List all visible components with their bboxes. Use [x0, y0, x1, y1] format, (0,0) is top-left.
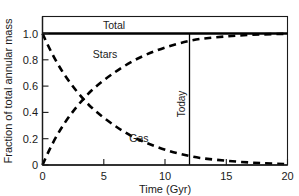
y-axis-title: Fraction of total annular mass — [2, 18, 14, 163]
y-tickmarks — [43, 34, 49, 166]
y-tick-label-0.8: 0.8 — [23, 54, 38, 66]
x-tick-label-0: 0 — [39, 170, 45, 182]
line-chart: 0 5 10 15 20 1.0 0.8 0.6 0.4 0.2 0 Time … — [0, 0, 299, 196]
today-label: Today — [176, 91, 187, 118]
y-tick-label-0.4: 0.4 — [23, 106, 38, 118]
x-tick-label-5: 5 — [101, 170, 107, 182]
y-tick-label-0: 0 — [32, 159, 38, 171]
y-tick-label-1.0: 1.0 — [23, 28, 38, 40]
plot-frame — [43, 17, 288, 166]
x-axis-title: Time (Gyr) — [139, 183, 191, 195]
series-gas-line — [43, 34, 288, 165]
total-label: Total — [103, 19, 125, 31]
x-tick-label-10: 10 — [159, 170, 171, 182]
y-tick-label-0.6: 0.6 — [23, 80, 38, 92]
figure-container: 0 5 10 15 20 1.0 0.8 0.6 0.4 0.2 0 Time … — [0, 0, 299, 196]
series-stars-line — [43, 34, 288, 165]
gas-label: Gas — [129, 132, 148, 144]
stars-label: Stars — [93, 48, 118, 60]
x-tick-label-20: 20 — [281, 170, 293, 182]
x-tick-label-15: 15 — [220, 170, 232, 182]
y-tick-label-0.2: 0.2 — [23, 133, 38, 145]
x-tickmarks — [43, 159, 288, 165]
